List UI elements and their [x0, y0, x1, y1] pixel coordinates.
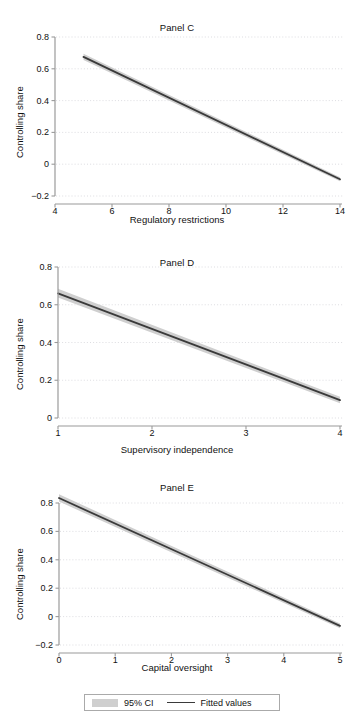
panel-c: Panel C Controlling share Regulatory res… [0, 0, 354, 235]
panel-e: Panel E Capital oversight −0.200.20.40.6… [0, 465, 354, 680]
ci-band-swatch-icon [92, 699, 118, 707]
panel-d-y-axis-label: Controlling share [14, 318, 25, 390]
fitted-line-swatch-icon [167, 702, 195, 703]
x-tick-label: 3 [225, 655, 230, 665]
x-tick-label: 1 [113, 655, 118, 665]
x-tick-label: 8 [166, 206, 171, 216]
panel-d: Panel D Supervisory independence 00.20.4… [0, 235, 354, 465]
y-tick-label: 0.8 [19, 498, 53, 508]
x-tick-label: 2 [169, 655, 174, 665]
panel-e-plot [0, 465, 354, 680]
legend-item-ci: 95% CI [92, 698, 154, 708]
x-tick-label: 6 [109, 206, 114, 216]
x-tick-label: 4 [281, 655, 286, 665]
panel-d-plot [0, 235, 354, 465]
x-tick-label: 3 [243, 428, 248, 438]
x-tick-label: 2 [149, 428, 154, 438]
y-tick-label: 0.6 [15, 64, 49, 74]
figure-legend: 95% CI Fitted values [84, 694, 280, 711]
x-tick-label: 0 [56, 655, 61, 665]
y-tick-label: 0.8 [15, 32, 49, 42]
coefficient-plot-figure: Panel C Controlling share Regulatory res… [0, 0, 354, 722]
y-tick-label: 0.4 [15, 96, 49, 106]
y-tick-label: 0 [18, 413, 52, 423]
legend-item-fitted: Fitted values [167, 698, 252, 708]
x-tick-label: 4 [337, 428, 342, 438]
x-tick-label: 5 [337, 655, 342, 665]
y-tick-label: −0.2 [15, 191, 49, 201]
y-tick-label: −0.2 [19, 640, 53, 650]
x-tick-label: 12 [278, 206, 288, 216]
y-tick-label: 0.6 [19, 526, 53, 536]
x-tick-label: 10 [221, 206, 231, 216]
x-tick-label: 1 [55, 428, 60, 438]
y-tick-label: 0 [15, 159, 49, 169]
panel-e-y-axis-label: Controlling share [14, 548, 25, 620]
panel-c-plot [0, 0, 354, 235]
x-tick-label: 14 [335, 206, 345, 216]
y-tick-label: 0.6 [18, 300, 52, 310]
legend-label-fitted: Fitted values [201, 698, 252, 708]
y-tick-label: 0.8 [18, 262, 52, 272]
legend-label-ci: 95% CI [124, 698, 154, 708]
x-tick-label: 4 [52, 206, 57, 216]
y-tick-label: 0.2 [15, 127, 49, 137]
